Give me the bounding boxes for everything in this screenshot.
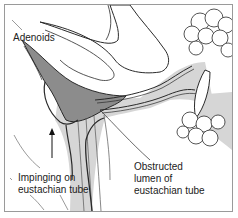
- arrow-icon: [49, 128, 55, 158]
- label-obstructed-line-3: eustachian tube: [134, 185, 205, 197]
- label-impinging-line-2: eustachian tube: [18, 184, 89, 196]
- label-obstructed: Obstructed lumen of eustachian tube: [134, 161, 205, 197]
- soft-palate: [40, 5, 169, 73]
- label-impinging-line-1: Impinging on: [18, 172, 89, 184]
- label-impinging: Impinging on eustachian tube: [18, 172, 89, 196]
- label-obstructed-line-2: lumen of: [134, 173, 205, 185]
- leader-obstructed: [100, 110, 150, 160]
- label-adenoids: Adenoids: [13, 32, 55, 44]
- label-obstructed-line-1: Obstructed: [134, 161, 205, 173]
